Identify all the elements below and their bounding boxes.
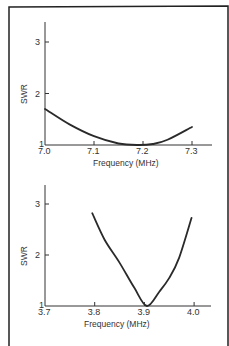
y-tick-label: 3 (35, 199, 40, 209)
swr-curve (92, 213, 191, 306)
x-tick-label: 7.3 (185, 146, 198, 156)
y-axis-label: SWR (19, 84, 29, 104)
swr-curve (45, 109, 192, 145)
y-ticks: 123 (35, 199, 49, 310)
y-axis-label: SWR (19, 246, 29, 266)
x-axis-label: Frequency (MHz) (93, 158, 159, 168)
chart-bottom-80m: 123 3.73.83.94.0 Frequency (MHz) SWR (19, 185, 211, 329)
x-tick-label: 3.9 (137, 307, 150, 317)
y-tick-label: 2 (35, 250, 40, 260)
x-tick-label: 7.1 (87, 146, 100, 156)
swr-figure: 123 7.07.17.27.3 Frequency (MHz) SWR 123… (0, 0, 229, 346)
y-tick-label: 3 (35, 37, 40, 47)
x-tick-label: 7.2 (136, 146, 149, 156)
x-axis-label: Frequency (MHz) (84, 319, 150, 329)
x-ticks: 3.73.83.94.0 (38, 302, 200, 317)
chart-top-40m: 123 7.07.17.27.3 Frequency (MHz) SWR (19, 22, 212, 168)
y-tick-label: 2 (35, 89, 40, 99)
x-tick-label: 3.8 (88, 307, 101, 317)
x-tick-label: 4.0 (187, 307, 200, 317)
figure-frame (9, 6, 228, 346)
x-tick-label: 7.0 (38, 146, 51, 156)
x-tick-label: 3.7 (38, 307, 51, 317)
y-ticks: 123 (35, 37, 49, 149)
